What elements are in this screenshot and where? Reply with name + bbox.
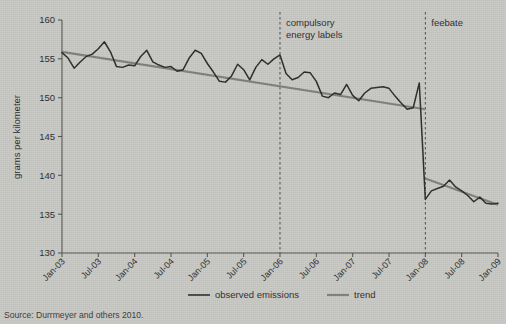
annotation-feebate-line1: feebate <box>431 17 463 28</box>
emissions-line-chart: 130135140145150155160 Jan-03Jul-03Jan-04… <box>0 0 506 324</box>
x-axis-tick-labels: Jan-03Jul-03Jan-04Jul-04Jan-05Jul-05Jan-… <box>40 253 503 283</box>
y-tick-label: 130 <box>39 247 55 258</box>
x-tick-label: Jan-04 <box>113 256 140 283</box>
trend-line-segment-0 <box>62 52 425 109</box>
x-tick-label: Jul-08 <box>442 256 466 280</box>
annotation-compulsory-energy-labels-line1: compulsory <box>286 17 335 28</box>
annotation-compulsory-energy-labels-line2: energy labels <box>286 29 343 40</box>
y-tick-label: 135 <box>39 209 55 220</box>
x-tick-label: Jan-08 <box>404 256 431 283</box>
x-tick-label: Jul-03 <box>79 256 103 280</box>
y-tick-label: 160 <box>39 14 55 25</box>
y-tick-label: 145 <box>39 131 55 142</box>
x-tick-label: Jul-06 <box>297 256 321 280</box>
x-tick-label: Jul-05 <box>224 256 248 280</box>
y-axis-tick-labels: 130135140145150155160 <box>39 14 62 258</box>
y-tick-label: 140 <box>39 170 55 181</box>
y-tick-label: 155 <box>39 53 55 64</box>
x-tick-label: Jan-07 <box>331 256 358 283</box>
y-axis-title: grams per kilometer <box>11 95 22 179</box>
chart-annotations: compulsoryenergy labelsfeebate <box>286 17 463 40</box>
x-tick-label: Jan-03 <box>40 256 67 283</box>
x-tick-label: Jul-04 <box>152 256 176 280</box>
x-tick-label: Jan-09 <box>476 256 503 283</box>
event-marker-lines <box>280 12 425 253</box>
source-note: Source: Durrmeyer and others 2010. <box>4 310 143 320</box>
chart-legend: observed emissionstrend <box>188 289 376 300</box>
legend-label-observed-emissions: observed emissions <box>215 289 299 300</box>
chart-figure: 130135140145150155160 Jan-03Jul-03Jan-04… <box>0 0 506 324</box>
x-tick-label: Jan-05 <box>186 256 213 283</box>
x-tick-label: Jan-06 <box>258 256 285 283</box>
y-tick-label: 150 <box>39 92 55 103</box>
x-tick-label: Jul-07 <box>370 256 394 280</box>
legend-label-trend: trend <box>354 289 376 300</box>
